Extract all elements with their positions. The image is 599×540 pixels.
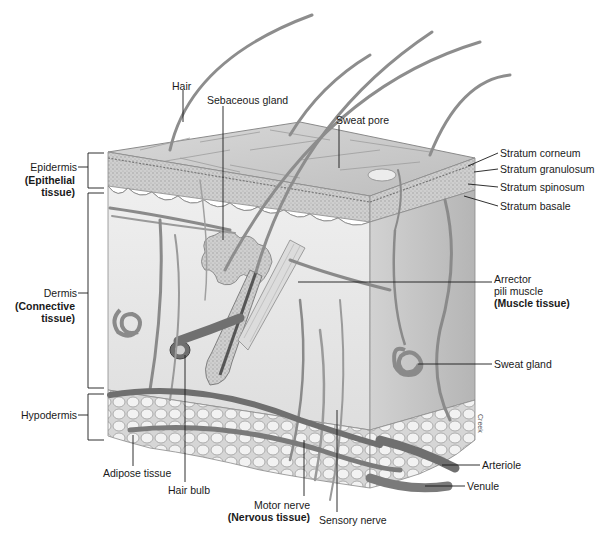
skin-diagram: Hair Sebaceous gland Sweat pore Stratum … <box>0 0 599 540</box>
label-nervous-tissue: (Nervous tissue) <box>210 511 310 523</box>
label-epidermis: Epidermis <box>0 161 77 173</box>
label-stratum-granulosum: Stratum granulosum <box>500 163 595 175</box>
label-adipose-tissue: Adipose tissue <box>103 467 171 479</box>
label-arrector-line2: pili muscle <box>494 285 543 297</box>
label-dermis: Dermis <box>0 287 77 299</box>
artist-credit: Creek <box>477 414 484 433</box>
label-connective-line2: tissue) <box>0 312 75 324</box>
label-sebaceous-gland: Sebaceous gland <box>207 94 288 106</box>
dermis-side <box>370 190 475 430</box>
label-hair: Hair <box>172 80 191 92</box>
label-sweat-pore: Sweat pore <box>336 114 389 126</box>
label-arrector-line1: Arrector <box>494 273 531 285</box>
label-hypodermis: Hypodermis <box>0 409 77 421</box>
label-motor-nerve: Motor nerve <box>230 499 310 511</box>
label-hair-bulb: Hair bulb <box>168 484 210 496</box>
label-stratum-corneum: Stratum corneum <box>500 147 581 159</box>
label-sweat-gland: Sweat gland <box>494 358 552 370</box>
label-sensory-nerve: Sensory nerve <box>319 514 387 526</box>
label-epithelial-line2: tissue) <box>0 186 75 198</box>
label-arteriole: Arteriole <box>482 459 521 471</box>
label-muscle-tissue: (Muscle tissue) <box>494 297 570 309</box>
label-epithelial-line1: (Epithelial <box>0 174 75 186</box>
label-venule: Venule <box>467 480 499 492</box>
label-connective-line1: (Connective <box>0 300 75 312</box>
label-stratum-spinosum: Stratum spinosum <box>500 181 585 193</box>
label-stratum-basale: Stratum basale <box>500 200 571 212</box>
